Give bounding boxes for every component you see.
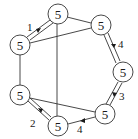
- node-c-label: 5: [17, 38, 24, 53]
- graph-diagram: 1 4 3 4 2 5 5 5 5 5 5 5: [0, 0, 138, 139]
- node-b-label: 5: [98, 18, 105, 33]
- edge-label-4-right: 4: [118, 38, 124, 50]
- edge-label-4-bottom: 4: [77, 123, 83, 135]
- edge-a-b: [67, 17, 91, 23]
- edge-label-2: 2: [30, 117, 36, 129]
- node-e-label: 5: [17, 88, 24, 103]
- node-a-label: 5: [55, 7, 62, 22]
- edge-label-1: 1: [27, 21, 33, 33]
- edge-label-3: 3: [119, 90, 125, 102]
- node-f-label: 5: [102, 107, 109, 122]
- node-g-label: 5: [55, 119, 62, 134]
- node-d-label: 5: [120, 65, 127, 80]
- arrow-icon-edge-4-right: [111, 44, 116, 48]
